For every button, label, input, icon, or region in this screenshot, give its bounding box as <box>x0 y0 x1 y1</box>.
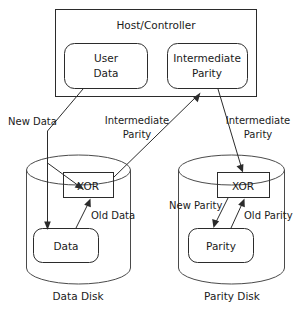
data-disk-caption: Data Disk <box>53 290 105 302</box>
parity-store-label: Parity <box>206 240 236 252</box>
user-data-label-line1: User <box>94 52 119 64</box>
old-data-arrowhead <box>84 199 91 208</box>
new-parity-arrowhead <box>212 219 219 228</box>
old-data-label: Old Data <box>91 210 135 221</box>
intermediate-parity-up-arrowhead <box>193 93 200 103</box>
old-data-connector <box>76 199 91 229</box>
intermediate-parity-down-arrowhead <box>237 164 244 172</box>
old-parity-label: Old Parity <box>244 210 293 221</box>
old-parity-connector <box>231 199 245 229</box>
intermediate-parity-left-label-line1: Intermediate <box>105 115 170 126</box>
diagram-canvas: Host/Controller User Data Intermediate P… <box>0 0 295 313</box>
intermediate-parity-right-label-line2: Parity <box>244 129 273 140</box>
user-data-label-line2: Data <box>93 67 118 79</box>
intermediate-parity-left-label-line2: Parity <box>123 129 152 140</box>
parity-disk-caption: Parity Disk <box>204 290 261 302</box>
intermediate-parity-right-label-line1: Intermediate <box>226 115 291 126</box>
data-store-label: Data <box>53 240 78 252</box>
intermediate-parity-label-line1: Intermediate <box>173 52 241 64</box>
raid-parity-diagram: Host/Controller User Data Intermediate P… <box>0 0 295 313</box>
host-controller-label: Host/Controller <box>116 19 196 31</box>
intermediate-parity-down-connector <box>218 89 243 173</box>
parity-disk-xor-label: XOR <box>232 180 254 192</box>
user-data-box <box>65 44 148 89</box>
intermediate-parity-box <box>168 44 248 89</box>
intermediate-parity-label-line2: Parity <box>192 67 222 79</box>
new-data-label: New Data <box>8 116 57 127</box>
old-parity-arrowhead <box>238 199 245 208</box>
new-parity-label: New Parity <box>169 200 223 211</box>
new-data-connector <box>44 89 83 230</box>
